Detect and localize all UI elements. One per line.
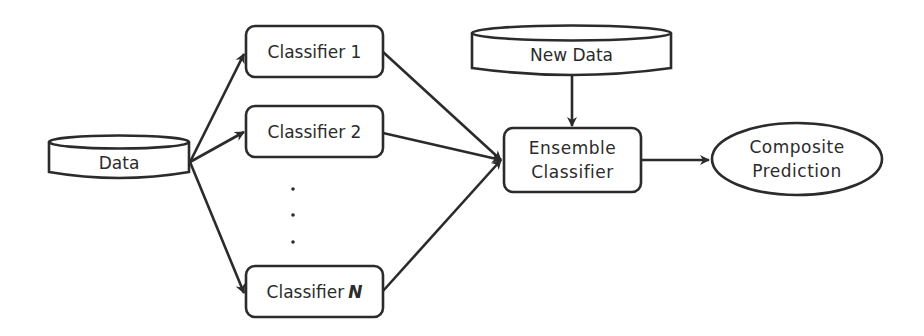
classifier-n-suffix: N: [348, 280, 362, 304]
composite-prediction-label: Composite Prediction: [712, 123, 882, 195]
classifier-1-label: Classifier 1: [246, 26, 383, 77]
classifier-n-prefix: Classifier: [267, 280, 345, 304]
edge-classifier-n-to-ensemble: [383, 160, 501, 291]
composite-line-2: Prediction: [752, 159, 841, 183]
ensemble-classifier-label: Ensemble Classifier: [504, 128, 641, 192]
classifier-2-label: Classifier 2: [246, 106, 383, 157]
composite-line-1: Composite: [749, 135, 844, 159]
edge-data-to-classifier-n: [190, 162, 244, 293]
ensemble-line-2: Classifier: [531, 160, 614, 184]
classifier-n-label: ClassifierN: [246, 266, 383, 317]
new-data-label: New Data: [472, 42, 671, 68]
ellipsis-dots: [291, 187, 295, 244]
ensemble-line-1: Ensemble: [529, 136, 616, 160]
data-label: Data: [49, 150, 189, 176]
edge-classifier-2-to-ensemble: [383, 133, 501, 160]
